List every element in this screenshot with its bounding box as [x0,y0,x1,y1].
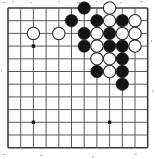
black-stone[interactable] [116,53,128,65]
scan-artifact [151,40,152,42]
go-board-figure [0,0,155,159]
white-stone[interactable] [53,27,65,39]
white-stone[interactable] [103,65,115,77]
black-stone[interactable] [78,40,90,52]
scan-artifact [77,2,80,3]
white-stone[interactable] [103,2,115,14]
scan-artifact [30,2,32,3]
black-stone[interactable] [116,65,128,77]
white-stone[interactable] [129,15,141,27]
go-board-svg [0,0,155,159]
scan-artifact [12,1,14,2]
white-stone[interactable] [103,53,115,65]
star-point [32,44,35,47]
scan-artifact [2,154,5,155]
scan-artifact [1,70,2,72]
white-stone[interactable] [129,40,141,52]
white-stone[interactable] [129,27,141,39]
scan-artifact [134,154,137,155]
scan-artifact [92,156,94,157]
scan-artifact [96,1,98,2]
goban[interactable] [0,0,155,159]
black-stone[interactable] [65,15,77,27]
white-stone[interactable] [91,27,103,39]
white-stone[interactable] [103,15,115,27]
scan-artifact [120,2,122,3]
star-point [32,121,35,124]
black-stone[interactable] [103,27,115,39]
black-stone[interactable] [116,15,128,27]
white-stone[interactable] [91,53,103,65]
scan-artifact [40,155,42,156]
black-stone[interactable] [78,27,90,39]
white-stone[interactable] [116,27,128,39]
scan-artifact [140,1,143,2]
black-stone[interactable] [91,15,103,27]
black-stone[interactable] [103,40,115,52]
scan-artifact [58,1,60,2]
black-stone[interactable] [91,65,103,77]
scan-artifact [152,90,153,92]
black-stone[interactable] [116,78,128,90]
scan-artifact [3,2,6,3]
white-stone[interactable] [91,40,103,52]
white-stone[interactable] [27,27,39,39]
black-stone[interactable] [116,40,128,52]
black-stone[interactable] [78,2,90,14]
star-point [108,121,111,124]
